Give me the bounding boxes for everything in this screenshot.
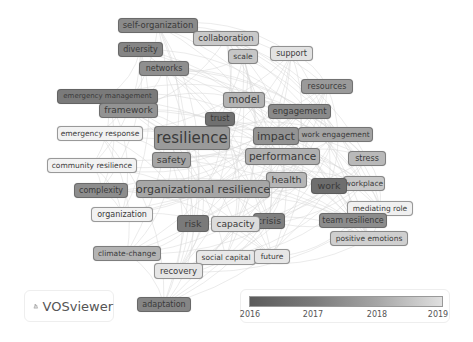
keyword-node-safety[interactable]: safety	[152, 152, 191, 168]
keyword-node-resilience[interactable]: resilience	[154, 126, 230, 150]
keyword-node-social-capital[interactable]: social capital	[196, 250, 256, 265]
keyword-node-climate-change[interactable]: climate-change	[93, 246, 161, 261]
keyword-label: workplace	[345, 180, 383, 188]
keyword-node-capacity[interactable]: capacity	[211, 216, 260, 232]
keyword-node-workplace[interactable]: workplace	[343, 176, 385, 191]
keyword-label: risk	[185, 219, 202, 229]
keyword-label: community resilience	[52, 162, 132, 170]
keyword-node-recovery[interactable]: recovery	[154, 263, 203, 279]
keyword-label: crisis	[257, 216, 281, 226]
keyword-node-team-resilience[interactable]: team resilience	[319, 213, 387, 228]
keyword-label: trust	[211, 115, 230, 123]
keyword-label: mediating role	[353, 205, 408, 213]
keyword-label: support	[276, 50, 307, 58]
keyword-node-support[interactable]: support	[270, 46, 313, 61]
keyword-node-engagement[interactable]: engagement	[268, 104, 331, 119]
keyword-label: resilience	[156, 131, 228, 146]
legend-tick: 2018	[367, 310, 387, 319]
keyword-node-resources[interactable]: resources	[301, 79, 353, 94]
keyword-label: team resilience	[322, 217, 383, 225]
keyword-node-networks[interactable]: networks	[139, 61, 189, 76]
keyword-node-work-engagement[interactable]: work engagement	[298, 127, 373, 142]
keyword-node-stress[interactable]: stress	[348, 151, 386, 166]
vosviewer-brand: VOSviewer	[24, 290, 114, 322]
keyword-label: collaboration	[198, 34, 253, 43]
legend-tick: 2017	[303, 310, 323, 319]
keyword-node-organization[interactable]: organization	[91, 207, 153, 222]
vosviewer-logo-icon	[33, 297, 39, 315]
keyword-node-model[interactable]: model	[223, 92, 265, 108]
keyword-node-work[interactable]: work	[311, 178, 347, 194]
keyword-label: organizational resilience	[136, 184, 270, 195]
keyword-label: self-organization	[123, 21, 194, 30]
keyword-node-collaboration[interactable]: collaboration	[193, 31, 259, 46]
keyword-node-trust[interactable]: trust	[205, 112, 235, 126]
keyword-node-diversity[interactable]: diversity	[118, 42, 163, 57]
keyword-label: recovery	[160, 267, 197, 276]
keyword-label: emergency response	[61, 130, 140, 138]
keyword-label: complexity	[79, 187, 123, 195]
keyword-label: social capital	[202, 254, 251, 262]
keyword-node-self-organization[interactable]: self-organization	[118, 18, 198, 33]
keyword-node-emergency-management[interactable]: emergency management	[57, 89, 158, 104]
keyword-label: networks	[146, 65, 183, 73]
keyword-label: health	[271, 175, 301, 185]
keyword-label: organization	[97, 211, 147, 219]
keyword-node-positive-emotions[interactable]: positive emotions	[330, 231, 408, 246]
legend-tick: 2019	[428, 310, 448, 319]
keyword-node-adaptation[interactable]: adaptation	[137, 297, 191, 312]
keyword-label: safety	[157, 155, 186, 165]
keyword-node-framework[interactable]: framework	[99, 103, 158, 118]
keyword-label: impact	[257, 131, 295, 142]
keyword-node-impact[interactable]: impact	[253, 127, 299, 145]
keyword-label: adaptation	[142, 301, 185, 309]
keyword-node-risk[interactable]: risk	[177, 215, 209, 232]
keyword-label: emergency management	[63, 93, 151, 100]
keyword-node-organizational-resilience[interactable]: organizational resilience	[136, 180, 270, 198]
legend-gradient-bar	[249, 296, 443, 307]
keyword-label: capacity	[217, 220, 255, 229]
legend-tick: 2016	[240, 310, 260, 319]
keyword-label: resources	[308, 83, 347, 91]
keyword-label: model	[228, 95, 259, 105]
keyword-node-scale[interactable]: scale	[228, 49, 258, 64]
keyword-label: framework	[104, 106, 152, 115]
keyword-node-performance[interactable]: performance	[245, 148, 320, 165]
keyword-label: diversity	[123, 46, 158, 54]
keyword-label: work	[318, 181, 341, 191]
keyword-node-health[interactable]: health	[266, 172, 307, 188]
brand-name: VOSviewer	[43, 299, 113, 314]
keyword-node-emergency-response[interactable]: emergency response	[57, 126, 143, 141]
keyword-label: work engagement	[301, 131, 369, 139]
keyword-label: positive emotions	[336, 235, 403, 243]
keyword-label: future	[261, 253, 284, 261]
keyword-node-community-resilience[interactable]: community resilience	[47, 158, 137, 173]
year-color-legend: 2016 2017 2018 2019	[240, 289, 450, 323]
keyword-label: climate-change	[98, 250, 156, 258]
keyword-label: scale	[233, 53, 252, 61]
keyword-label: stress	[355, 155, 379, 163]
keyword-label: performance	[249, 151, 316, 162]
keyword-node-future[interactable]: future	[254, 249, 290, 264]
keyword-node-complexity[interactable]: complexity	[74, 183, 128, 198]
keyword-label: engagement	[272, 107, 326, 116]
